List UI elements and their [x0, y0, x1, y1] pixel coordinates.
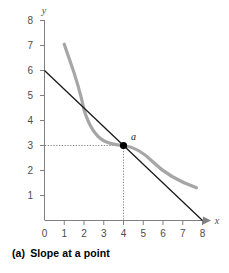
curve-gray [64, 44, 196, 188]
y-tick-label-7: 7 [27, 40, 33, 51]
y-tick-label-5: 5 [27, 90, 33, 101]
caption-text: Slope at a point [30, 247, 110, 259]
y-tick-label-6: 6 [27, 65, 33, 76]
x-tick-label-5: 5 [140, 228, 146, 239]
figure-slope-at-a-point: 1 2 3 4 5 6 7 8 0 1 2 3 4 5 6 7 8 y x a [0, 0, 229, 273]
chart-canvas: 1 2 3 4 5 6 7 8 0 1 2 3 4 5 6 7 8 y x a [0, 0, 229, 273]
y-tick-label-3: 3 [27, 140, 33, 151]
figure-caption: (a)Slope at a point [12, 247, 222, 259]
x-tick-label-4: 4 [121, 228, 127, 239]
x-tick-label-7: 7 [180, 228, 186, 239]
x-axis-arrow-icon [203, 217, 211, 225]
y-axis-label: y [41, 5, 47, 16]
x-tick-label-3: 3 [101, 228, 107, 239]
y-tick-label-8: 8 [27, 15, 33, 26]
x-tick-label-1: 1 [61, 228, 67, 239]
point-a-label: a [131, 131, 136, 142]
x-tick-label-0: 0 [42, 228, 48, 239]
y-tick-label-2: 2 [27, 165, 33, 176]
caption-letter: (a) [12, 247, 25, 259]
y-axis-ticks [40, 21, 45, 196]
y-tick-label-1: 1 [27, 190, 33, 201]
x-tick-label-2: 2 [81, 228, 87, 239]
x-axis-label: x [214, 215, 220, 226]
x-tick-label-6: 6 [160, 228, 166, 239]
point-a-marker [120, 142, 127, 149]
x-tick-label-8: 8 [200, 228, 206, 239]
x-axis-ticks [64, 221, 202, 226]
y-tick-label-4: 4 [27, 115, 33, 126]
